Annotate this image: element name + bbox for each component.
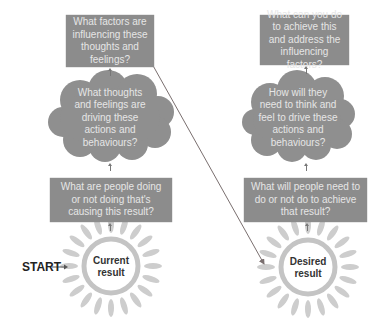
current-result-label: Current result xyxy=(91,255,131,279)
left-top-box-text: What factors are influencing these thoug… xyxy=(72,16,148,66)
right-top-box: What can you do to achieve this and addr… xyxy=(260,15,349,65)
right-cloud-text: How will they need to think and feel to … xyxy=(258,88,338,148)
up-arrow-icon xyxy=(110,70,111,76)
up-arrow-icon xyxy=(306,165,307,171)
up-arrow-icon xyxy=(110,165,111,171)
desired-result-label: Desired result xyxy=(288,256,328,280)
up-arrow-icon xyxy=(307,225,308,231)
start-label: START xyxy=(22,260,61,274)
right-top-box-text: What can you do to achieve this and addr… xyxy=(266,9,343,72)
left-top-box: What factors are influencing these thoug… xyxy=(66,15,154,67)
left-middle-box: What are people doing or not doing that'… xyxy=(50,178,172,222)
left-middle-box-text: What are people doing or not doing that'… xyxy=(56,181,166,219)
connector-line xyxy=(151,62,264,264)
up-arrow-icon xyxy=(110,225,111,231)
right-middle-box: What will people need to do or not do to… xyxy=(244,178,367,222)
left-cloud-text: What thoughts and feelings are driving t… xyxy=(70,88,150,148)
right-middle-box-text: What will people need to do or not do to… xyxy=(250,181,361,219)
up-arrow-icon xyxy=(306,68,307,74)
